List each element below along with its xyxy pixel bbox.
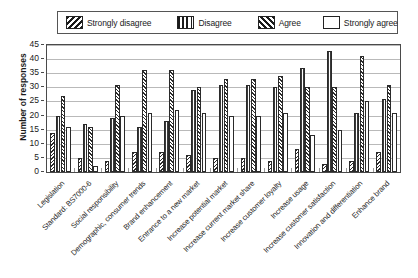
legend-label-disagree: Disagree xyxy=(198,18,231,28)
bar-strongly-disagree xyxy=(241,158,246,172)
bar-strongly-agree xyxy=(283,113,288,172)
bar-group xyxy=(183,45,210,172)
y-tick-mark-25 xyxy=(41,100,44,101)
bar-disagree xyxy=(137,127,142,172)
bar-agree xyxy=(251,79,256,172)
y-tick-label-25: 25 xyxy=(1,96,39,105)
y-tick-label-20: 20 xyxy=(1,110,39,119)
bar-group xyxy=(210,45,237,172)
bar-agree xyxy=(387,85,392,172)
y-tick-mark-30 xyxy=(41,86,44,87)
bar-strongly-agree xyxy=(66,127,71,172)
bar-group xyxy=(346,45,373,172)
legend-swatch-strongly-disagree-icon xyxy=(66,16,83,29)
legend-label-strongly-agree: Strongly agree xyxy=(344,18,398,28)
bar-disagree xyxy=(191,90,196,172)
bar-agree xyxy=(169,70,174,172)
bar-agree xyxy=(61,96,66,172)
y-tick-label-15: 15 xyxy=(1,124,39,133)
bar-disagree xyxy=(354,113,359,172)
bar-strongly-agree xyxy=(229,116,234,172)
bar-strongly-disagree xyxy=(105,161,110,172)
y-tick-mark-10 xyxy=(41,143,44,144)
bar-agree xyxy=(332,87,337,172)
bar-strongly-agree xyxy=(392,113,397,172)
bar-agree xyxy=(197,87,202,172)
y-tick-label-5: 5 xyxy=(1,153,39,162)
legend-item-agree: Agree xyxy=(258,12,301,33)
bar-disagree xyxy=(56,116,61,172)
bar-strongly-agree xyxy=(365,101,370,172)
bar-agree xyxy=(142,70,147,172)
bar-agree xyxy=(305,87,310,172)
y-tick-mark-40 xyxy=(41,58,44,59)
bar-group xyxy=(373,45,400,172)
plot-area xyxy=(46,44,401,173)
bar-disagree xyxy=(246,85,251,172)
bar-strongly-disagree xyxy=(213,158,218,172)
legend-swatch-strongly-agree-icon xyxy=(323,16,340,29)
y-tick-label-35: 35 xyxy=(1,68,39,77)
y-tick-label-45: 45 xyxy=(1,40,39,49)
legend-swatch-disagree-icon xyxy=(177,16,194,29)
bar-strongly-disagree xyxy=(376,152,381,172)
bar-strongly-disagree xyxy=(295,149,300,172)
bar-agree xyxy=(115,85,120,172)
y-tick-label-30: 30 xyxy=(1,82,39,91)
chart-legend: Strongly disagree Disagree Agree Strongl… xyxy=(57,11,398,34)
y-tick-mark-0 xyxy=(41,171,44,172)
legend-item-strongly-agree: Strongly agree xyxy=(323,12,398,33)
bar-strongly-disagree xyxy=(322,164,327,172)
bar-disagree xyxy=(327,51,332,172)
bar-disagree xyxy=(382,99,387,172)
bar-disagree xyxy=(83,124,88,172)
y-tick-label-10: 10 xyxy=(1,139,39,148)
legend-item-disagree: Disagree xyxy=(177,12,231,33)
bar-disagree xyxy=(300,68,305,172)
y-tick-label-40: 40 xyxy=(1,54,39,63)
bar-strongly-disagree xyxy=(132,152,137,172)
y-tick-label-0: 0 xyxy=(1,167,39,176)
bar-group xyxy=(74,45,101,172)
bar-strongly-agree xyxy=(202,113,207,172)
bar-group xyxy=(319,45,346,172)
y-tick-mark-35 xyxy=(41,72,44,73)
bar-strongly-agree xyxy=(120,116,125,172)
bar-series-container xyxy=(47,45,400,172)
bar-group xyxy=(128,45,155,172)
x-axis-labels: LegislationStandard: BS7000-6Social resp… xyxy=(0,175,418,278)
bar-disagree xyxy=(164,121,169,172)
bar-disagree xyxy=(273,87,278,172)
bar-group xyxy=(237,45,264,172)
bar-group xyxy=(291,45,318,172)
bar-chart-figure: Strongly disagree Disagree Agree Strongl… xyxy=(0,0,418,278)
bar-group xyxy=(156,45,183,172)
bar-strongly-agree xyxy=(148,113,153,172)
bar-strongly-disagree xyxy=(186,155,191,172)
y-axis-ticks: 051015202530354045 xyxy=(0,44,44,173)
bar-disagree xyxy=(110,118,115,172)
y-tick-mark-15 xyxy=(41,129,44,130)
y-tick-mark-5 xyxy=(41,157,44,158)
bar-strongly-agree xyxy=(175,110,180,172)
gridline-0 xyxy=(47,172,400,173)
bar-strongly-disagree xyxy=(268,161,273,172)
bar-strongly-disagree xyxy=(159,152,164,172)
bar-group xyxy=(101,45,128,172)
y-tick-mark-20 xyxy=(41,115,44,116)
bar-strongly-disagree xyxy=(50,133,55,173)
bar-group xyxy=(264,45,291,172)
legend-label-strongly-disagree: Strongly disagree xyxy=(87,18,151,28)
bar-agree xyxy=(278,76,283,172)
bar-strongly-disagree xyxy=(349,161,354,172)
legend-label-agree: Agree xyxy=(279,18,301,28)
bar-agree xyxy=(88,127,93,172)
bar-agree xyxy=(360,56,365,172)
bar-strongly-agree xyxy=(338,130,343,172)
bar-group xyxy=(47,45,74,172)
bar-strongly-disagree xyxy=(78,158,83,172)
bar-strongly-agree xyxy=(310,135,315,172)
legend-item-strongly-disagree: Strongly disagree xyxy=(66,12,151,33)
bar-strongly-agree xyxy=(93,166,98,172)
bar-agree xyxy=(224,79,229,172)
